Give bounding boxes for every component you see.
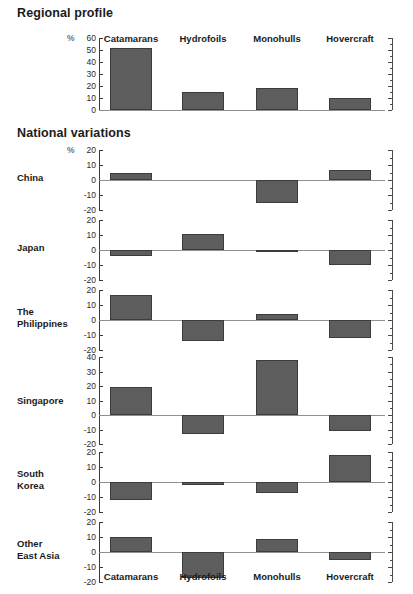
right-axis-tick xyxy=(390,92,393,93)
right-axis-tick xyxy=(390,104,393,105)
y-axis-tick xyxy=(99,165,103,166)
right-axis-tick xyxy=(388,210,392,211)
right-axis-tick xyxy=(390,505,393,506)
bottom-category-axis: CatamaransHydrofoilsMonohullsHovercraft xyxy=(0,571,413,587)
right-axis-tick xyxy=(390,273,393,274)
right-axis-tick xyxy=(388,98,392,99)
y-axis-tick xyxy=(99,512,103,513)
zero-baseline xyxy=(99,110,385,111)
right-axis-tick xyxy=(390,364,393,365)
bar xyxy=(182,92,224,110)
right-axis-tick xyxy=(390,437,393,438)
right-axis-tick xyxy=(388,165,392,166)
y-axis-tick-label: 0 xyxy=(91,176,96,185)
bar xyxy=(329,170,371,181)
right-axis-tick xyxy=(390,422,393,423)
right-axis-tick xyxy=(390,460,393,461)
y-axis-tick-label: -10 xyxy=(84,331,96,340)
y-axis-tick xyxy=(99,567,103,568)
y-axis-tick xyxy=(99,430,103,431)
y-axis-tick xyxy=(99,350,103,351)
chart-panel: China%-20-1001020 xyxy=(0,150,413,210)
y-axis-tick xyxy=(99,497,103,498)
bar xyxy=(182,320,224,341)
right-axis-line xyxy=(392,150,393,210)
y-axis-tick-label: 60 xyxy=(87,34,96,43)
chart-panel: Singapore-20-10010203040 xyxy=(0,357,413,444)
right-axis-tick xyxy=(388,305,392,306)
right-axis-tick xyxy=(388,320,392,321)
bar xyxy=(256,314,298,320)
right-axis-tick xyxy=(388,220,392,221)
right-axis-tick xyxy=(388,235,392,236)
y-axis-tick xyxy=(99,280,103,281)
right-axis-tick xyxy=(390,173,393,174)
y-axis-tick-label: 20 xyxy=(87,146,96,155)
y-axis-tick xyxy=(99,290,103,291)
y-axis-tick-label: 20 xyxy=(87,448,96,457)
y-axis-tick xyxy=(99,38,103,39)
bar xyxy=(110,387,152,415)
category-label-bottom: Catamarans xyxy=(104,571,158,582)
bar xyxy=(329,415,371,431)
y-axis-tick-label: 10 xyxy=(87,463,96,472)
y-axis-tick xyxy=(99,537,103,538)
y-axis-tick-label: 20 xyxy=(87,82,96,91)
right-axis-tick xyxy=(388,290,392,291)
category-label-top: Hovercraft xyxy=(326,33,374,44)
panel-row-label: South Korea xyxy=(17,468,44,491)
y-axis-tick xyxy=(99,220,103,221)
right-axis-tick xyxy=(390,475,393,476)
right-axis-tick xyxy=(388,357,392,358)
right-axis-tick xyxy=(390,188,393,189)
right-axis-line xyxy=(392,452,393,512)
right-axis-tick xyxy=(388,386,392,387)
bar xyxy=(329,250,371,265)
right-axis-tick xyxy=(388,250,392,251)
y-axis-tick-label: 0 xyxy=(91,411,96,420)
y-axis-tick xyxy=(99,98,103,99)
right-axis-tick xyxy=(388,38,392,39)
bar xyxy=(329,320,371,338)
right-axis-tick xyxy=(388,430,392,431)
y-axis-tick xyxy=(99,522,103,523)
right-axis-tick xyxy=(390,80,393,81)
right-axis-tick xyxy=(390,158,393,159)
right-axis-tick xyxy=(390,379,393,380)
right-axis-line xyxy=(392,290,393,350)
right-axis-tick xyxy=(390,393,393,394)
right-axis-tick xyxy=(388,350,392,351)
y-axis-tick-label: -10 xyxy=(84,563,96,572)
right-axis-tick xyxy=(388,415,392,416)
right-axis-tick xyxy=(388,512,392,513)
category-label-bottom: Hydrofoils xyxy=(180,571,227,582)
bar xyxy=(256,88,298,110)
y-axis-tick-label: -20 xyxy=(84,276,96,285)
y-axis-tick-label: 10 xyxy=(87,94,96,103)
y-axis-tick-label: -20 xyxy=(84,508,96,517)
y-axis-tick-label: 40 xyxy=(87,58,96,67)
y-axis-tick-label: 0 xyxy=(91,246,96,255)
right-axis-tick xyxy=(388,522,392,523)
panel-row-label: Japan xyxy=(17,242,44,254)
y-axis-tick-label: 10 xyxy=(87,533,96,542)
right-axis-tick xyxy=(390,258,393,259)
zero-baseline xyxy=(99,180,385,181)
bar xyxy=(256,180,298,203)
category-label-bottom: Hovercraft xyxy=(326,571,374,582)
right-axis-tick xyxy=(390,228,393,229)
right-axis-line xyxy=(392,38,393,110)
y-axis-tick-label: -10 xyxy=(84,261,96,270)
right-axis-tick xyxy=(390,343,393,344)
right-axis-line xyxy=(392,220,393,280)
chart-panel: The Philippines-20-1001020 xyxy=(0,290,413,350)
bar xyxy=(110,48,152,110)
right-axis-tick xyxy=(390,560,393,561)
right-axis-tick xyxy=(388,482,392,483)
y-axis-tick-label: 10 xyxy=(87,231,96,240)
right-axis-tick xyxy=(390,243,393,244)
right-axis-tick xyxy=(388,62,392,63)
right-axis-tick xyxy=(390,313,393,314)
y-axis-tick-label: -10 xyxy=(84,493,96,502)
right-axis-tick xyxy=(388,497,392,498)
